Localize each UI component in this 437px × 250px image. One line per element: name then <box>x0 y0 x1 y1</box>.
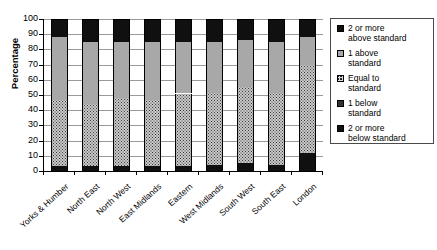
stacked-bar-chart: Percentage 1009080706050403020100 Yorks … <box>0 0 437 250</box>
legend-swatch-icon <box>337 50 344 57</box>
plot-area <box>43 19 323 172</box>
bar-segment <box>144 42 161 100</box>
bar-segment <box>82 104 99 166</box>
legend-item-label: Equal tostandard <box>348 74 381 93</box>
x-tick-mark <box>322 171 323 175</box>
chart-legend: 2 or moreabove standard1 abovestandardEq… <box>330 18 434 144</box>
y-tick-label: 80 <box>28 44 38 53</box>
y-tick-label: 100 <box>23 14 38 23</box>
legend-label-line: standard <box>348 109 381 119</box>
legend-label-line: below standard <box>348 134 406 144</box>
x-tick-mark <box>260 171 261 175</box>
bar-segment <box>299 37 316 64</box>
bar-segment <box>113 19 130 42</box>
legend-swatch-icon <box>337 25 344 32</box>
bar-segment <box>268 19 285 42</box>
bar-segment <box>206 42 223 94</box>
y-tick-label: 20 <box>28 136 38 145</box>
y-tick-label: 40 <box>28 105 38 114</box>
legend-item-label: 1 abovestandard <box>348 49 381 68</box>
bar-segment <box>113 98 130 166</box>
legend-item: 1 belowstandard <box>337 99 429 118</box>
y-tick-label: 30 <box>28 120 38 129</box>
legend-label-line: above standard <box>348 34 407 44</box>
legend-item-label: 1 belowstandard <box>348 99 381 118</box>
y-axis-ticks: 1009080706050403020100 <box>0 0 43 153</box>
bar-segment <box>237 163 254 171</box>
legend-item-label: 2 or moreabove standard <box>348 24 407 43</box>
x-tick-mark <box>74 171 75 175</box>
x-tick-mark <box>198 171 199 175</box>
legend-item: 1 abovestandard <box>337 49 429 68</box>
y-tick-label: 10 <box>28 151 38 160</box>
x-tick-mark <box>167 171 168 175</box>
bar-segment <box>175 19 192 42</box>
bar-segment <box>82 42 99 104</box>
x-tick-mark <box>229 171 230 175</box>
bar-segment <box>113 42 130 98</box>
bar-segment <box>268 42 285 94</box>
bar-segment <box>51 37 68 99</box>
bar-segment <box>237 87 254 163</box>
y-tick-label: 70 <box>28 60 38 69</box>
bar-segment <box>299 153 316 171</box>
bar-segment <box>51 19 68 37</box>
legend-label-line: standard <box>348 59 381 69</box>
x-tick-mark <box>105 171 106 175</box>
x-axis-ticks <box>43 171 323 176</box>
y-tick-label: 60 <box>28 75 38 84</box>
legend-item-label: 2 or morebelow standard <box>348 124 406 143</box>
legend-swatch-icon <box>337 125 344 132</box>
bar-segment <box>237 19 254 40</box>
bar-segment <box>299 65 316 153</box>
bar-segment <box>82 19 99 42</box>
y-tick-label: 50 <box>28 90 38 99</box>
bar-segment <box>206 19 223 42</box>
x-tick-mark <box>291 171 292 175</box>
legend-label-line: standard <box>348 84 381 94</box>
bar-segment <box>299 19 316 37</box>
bar-segment <box>144 100 161 167</box>
bar-segment <box>175 94 192 167</box>
legend-swatch-icon <box>337 75 344 82</box>
legend-item: 2 or morebelow standard <box>337 124 429 143</box>
bar-segment <box>51 100 68 167</box>
y-tick-label: 90 <box>28 29 38 38</box>
legend-item: Equal tostandard <box>337 74 429 93</box>
bar-segment <box>237 40 254 87</box>
bar-segment <box>206 93 223 164</box>
bar-segment <box>144 19 161 42</box>
y-tick-label: 0 <box>33 166 38 175</box>
legend-item: 2 or moreabove standard <box>337 24 429 43</box>
bar-segment <box>175 42 192 94</box>
x-tick-mark <box>136 171 137 175</box>
bar-segment <box>268 93 285 164</box>
x-tick-mark <box>43 171 44 175</box>
legend-swatch-icon <box>337 100 344 107</box>
